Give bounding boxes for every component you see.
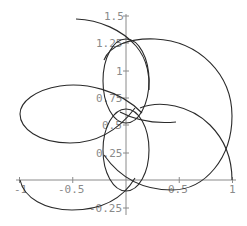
curve-top-arc [76, 19, 149, 90]
parametric-plot: -1 -0.5 0.5 1 1.5 1.25 1 0.75 0.5 0.25 -… [0, 0, 247, 226]
curve-right-lobe [104, 39, 232, 190]
y-tick-label: 0.75 [96, 92, 123, 105]
y-tick-label: 1.5 [104, 10, 124, 23]
x-tick-label: -1 [14, 183, 27, 196]
x-tick-labels: -1 -0.5 0.5 1 [14, 183, 236, 196]
y-tick-label: 1.25 [96, 37, 123, 50]
curve-lower-right-arc [140, 104, 232, 180]
x-tick-label: -0.5 [58, 183, 85, 196]
y-tick-label: 1 [116, 65, 123, 78]
curve-tail [120, 112, 176, 123]
x-tick-label: 1 [229, 183, 236, 196]
y-tick-label: 0.25 [96, 147, 123, 160]
